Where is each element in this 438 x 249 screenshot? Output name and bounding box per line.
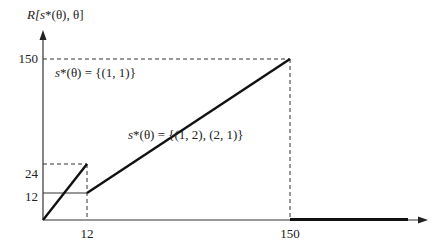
x-tick-150: 150 [280, 226, 300, 241]
y-axis-label: R[s*(θ), θ] [26, 7, 84, 22]
annotation-s-12-21: s*(θ) = {(1, 2), (2, 1)} [128, 127, 244, 142]
y-tick-12: 12 [25, 189, 38, 204]
y-axis-arrow-icon [40, 30, 47, 40]
x-axis-arrow-icon [418, 217, 428, 224]
chart: R[s*(θ), θ] 150 24 12 12 150 s*(θ) = {(1… [0, 0, 438, 249]
y-tick-150: 150 [19, 51, 39, 66]
x-tick-12: 12 [81, 226, 94, 241]
series-line-1-1 [43, 164, 87, 220]
y-tick-24: 24 [25, 166, 39, 181]
annotation-s-1-1: s*(θ) = {(1, 1)} [55, 65, 136, 80]
